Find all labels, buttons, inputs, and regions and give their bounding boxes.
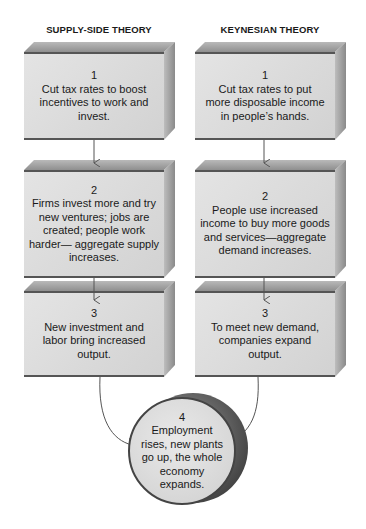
step-text: People use increased income to buy more …	[195, 204, 335, 258]
supply-side-title: SUPPLY-SIDE THEORY	[24, 24, 174, 35]
outcome-circle: 4 Employment rises, new plants go up, th…	[128, 393, 256, 509]
step-number: 1	[91, 69, 97, 83]
supply-step-1: 1 Cut tax rates to boost incentives to w…	[24, 42, 175, 140]
outcome-text: Employment rises, new plants go up, the …	[130, 424, 234, 492]
step-number: 2	[262, 190, 268, 204]
step-number: 3	[91, 307, 97, 321]
keynesian-step-2: 2 People use increased income to buy mor…	[195, 160, 346, 278]
outcome-number: 4	[179, 411, 185, 425]
step-number: 3	[262, 307, 268, 321]
step-number: 1	[262, 69, 268, 83]
supply-step-3: 3 New investment and labor bring increas…	[24, 281, 175, 377]
step-text: Firms invest more and try new ventures; …	[24, 197, 164, 265]
step-text: Cut tax rates to put more disposable inc…	[195, 83, 335, 124]
keynesian-title: KEYNESIAN THEORY	[195, 24, 345, 35]
supply-step-2: 2 Firms invest more and try new ventures…	[24, 160, 175, 278]
circle-face: 4 Employment rises, new plants go up, th…	[128, 397, 236, 505]
step-text: New investment and labor bring increased…	[24, 321, 164, 362]
step-text: Cut tax rates to boost incentives to wor…	[24, 83, 164, 124]
step-text: To meet new demand, companies expand out…	[195, 321, 335, 362]
step-number: 2	[91, 184, 97, 198]
keynesian-step-1: 1 Cut tax rates to put more disposable i…	[195, 42, 346, 140]
keynesian-step-3: 3 To meet new demand, companies expand o…	[195, 281, 346, 377]
